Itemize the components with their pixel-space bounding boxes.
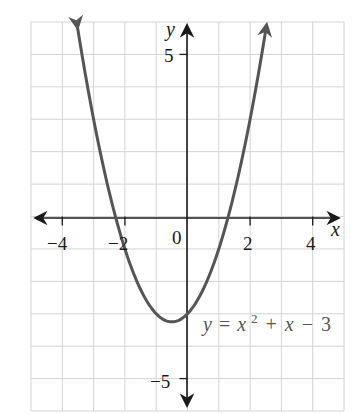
eq-const: 3 — [321, 313, 331, 335]
eq-x2: x — [284, 313, 294, 335]
y-tick-label: −5 — [150, 371, 170, 392]
x-tick-label: 4 — [306, 233, 316, 254]
equation-label: y = x 2 + x − 3 — [201, 305, 331, 336]
eq-equals: = — [219, 313, 230, 335]
eq-exponent: 2 — [251, 311, 258, 326]
eq-plus: + — [266, 313, 277, 335]
origin-label: 0 — [172, 227, 182, 248]
y-axis-label: y — [164, 18, 175, 41]
x-axis-label: x — [330, 218, 340, 240]
parabola-chart: x y 0 −4 −2 2 4 5 −5 y = x 2 + x − 3 — [0, 0, 358, 414]
x-tick-label: −2 — [108, 233, 128, 254]
eq-x1: x — [236, 313, 246, 335]
x-tick-label: 2 — [243, 233, 253, 254]
eq-y: y — [201, 313, 212, 336]
eq-minus: − — [302, 313, 313, 335]
y-tick-label: 5 — [164, 45, 174, 66]
parabola-curve — [77, 26, 266, 322]
x-tick-label: −4 — [47, 233, 68, 254]
